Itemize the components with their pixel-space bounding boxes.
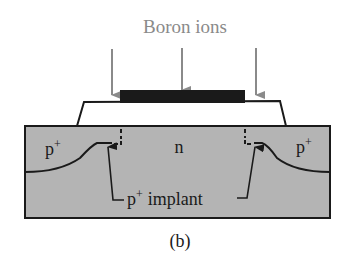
ion-arrows <box>112 48 256 95</box>
n-region-label: n <box>175 137 184 157</box>
title-label: Boron ions <box>143 16 227 37</box>
implant-diagram: Boron ions p+ n p+ p+implant (b) <box>0 0 350 268</box>
gate <box>120 90 245 103</box>
oxide-layer <box>77 101 286 126</box>
caption-label: (b) <box>170 231 191 252</box>
